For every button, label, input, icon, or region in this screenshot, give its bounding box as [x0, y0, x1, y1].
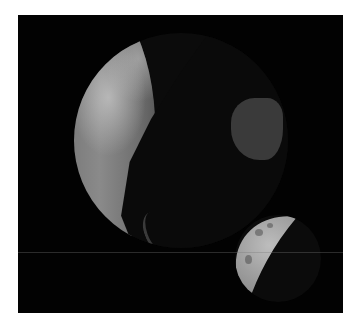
moon-crater [267, 223, 273, 228]
moon-sphere [235, 215, 321, 302]
moon-crater [245, 255, 252, 264]
earth-sphere [74, 33, 288, 248]
earth-continent [231, 98, 283, 160]
moon-crater [255, 229, 263, 236]
render-canvas[interactable] [18, 15, 343, 313]
render-artifact-line [18, 252, 343, 253]
